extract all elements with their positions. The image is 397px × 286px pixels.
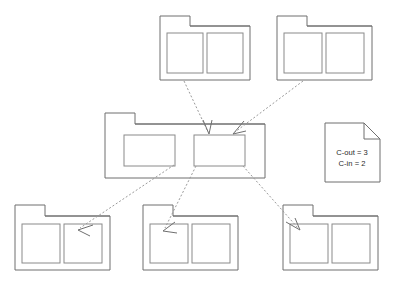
folder-top-right[interactable] bbox=[277, 16, 372, 80]
metrics-note[interactable]: C-out = 3 C-in = 2 bbox=[325, 123, 380, 182]
diagram-canvas: C-out = 3 C-in = 2 bbox=[0, 0, 397, 286]
folder-center[interactable] bbox=[105, 113, 265, 178]
edge-center-to-bottom-right bbox=[243, 166, 300, 230]
folder-top-left-compartment-1 bbox=[167, 33, 203, 73]
folder-bottom-left[interactable] bbox=[15, 205, 110, 270]
folder-bottom-left-compartment-2 bbox=[64, 224, 102, 263]
folder-bottom-middle-compartment-2 bbox=[192, 224, 230, 263]
folder-center-compartment-1 bbox=[124, 135, 175, 166]
folder-center-compartment-2 bbox=[194, 135, 245, 166]
folder-bottom-left-compartment-1 bbox=[22, 224, 60, 263]
folder-bottom-right[interactable] bbox=[283, 205, 378, 270]
folder-top-left-compartment-2 bbox=[207, 33, 243, 73]
folder-top-right-compartment-1 bbox=[284, 33, 322, 73]
edge-top-right-to-center-line bbox=[235, 81, 303, 132]
package-dependency-diagram: C-out = 3 C-in = 2 bbox=[0, 0, 397, 286]
folder-bottom-middle[interactable] bbox=[143, 205, 238, 270]
folder-top-left[interactable] bbox=[160, 16, 250, 80]
folder-bottom-right-compartment-2 bbox=[332, 224, 370, 263]
metrics-note-line-1: C-out = 3 bbox=[336, 148, 367, 157]
folder-bottom-middle-compartment-1 bbox=[150, 224, 188, 263]
metrics-note-line-2: C-in = 2 bbox=[339, 159, 366, 168]
folder-bottom-right-compartment-1 bbox=[290, 224, 328, 263]
folder-top-right-compartment-2 bbox=[326, 33, 364, 73]
